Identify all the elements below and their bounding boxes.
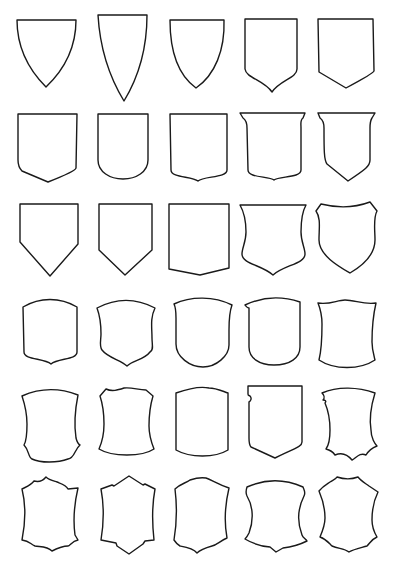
- shield-icon: [176, 387, 228, 456]
- shield-icon: [22, 390, 80, 462]
- shield-icon: [170, 114, 227, 181]
- shield-icon: [22, 477, 78, 551]
- shield-icon: [101, 476, 155, 554]
- shield-icon: [98, 114, 148, 179]
- shield-icon: [245, 19, 297, 92]
- shield-icon: [318, 113, 375, 181]
- shield-icon: [169, 204, 229, 275]
- shield-icon: [20, 204, 78, 276]
- shield-icon: [170, 20, 224, 88]
- shield-icon: [99, 204, 152, 275]
- shield-icon: [318, 300, 376, 368]
- shield-icon: [17, 20, 76, 87]
- shield-grid: [0, 0, 396, 570]
- shield-icon: [318, 19, 374, 88]
- shield-icon: [248, 386, 302, 458]
- shield-icon: [23, 300, 77, 365]
- shield-icon: [174, 298, 232, 367]
- shield-icon: [98, 15, 147, 101]
- shield-icon: [174, 478, 229, 553]
- shield-icon: [316, 202, 377, 273]
- shield-icon: [245, 298, 300, 365]
- shield-icon: [18, 114, 77, 182]
- shield-collection: Heraldic shield outline collection: [0, 0, 396, 570]
- shield-icon: [319, 477, 378, 552]
- shield-icon: [240, 113, 305, 180]
- shield-icon: [322, 388, 377, 460]
- shield-icon: [240, 205, 306, 275]
- shield-icon: [99, 388, 154, 455]
- shield-icon: [245, 481, 307, 552]
- shield-icon: [97, 301, 155, 367]
